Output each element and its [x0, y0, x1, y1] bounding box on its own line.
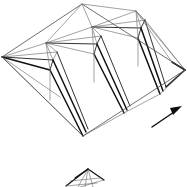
figure-canvas: Folded pleated surface Accordion-folded … — [0, 0, 187, 187]
folded-surface-figure — [0, 0, 187, 187]
